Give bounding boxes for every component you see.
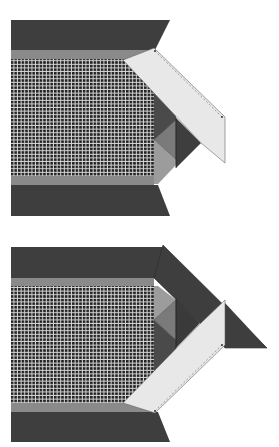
- stitch-start-dot-2: [154, 410, 156, 412]
- stitch-end-dot-2: [221, 344, 223, 346]
- step-2-illustration: [11, 245, 267, 442]
- top-gray-stripe-2: [11, 278, 154, 286]
- checker-center: [11, 59, 154, 176]
- right-dark-triangle-2: [225, 303, 267, 348]
- quilt-diagram: [0, 0, 279, 447]
- bottom-gray-stripe: [11, 176, 154, 185]
- checker-center-2: [11, 286, 154, 403]
- stitch-start-dot: [154, 50, 156, 52]
- stitch-end-dot: [221, 116, 223, 118]
- bottom-dark-band: [11, 185, 170, 216]
- bottom-dark-band-2: [11, 412, 170, 442]
- step-1-illustration: [11, 20, 225, 216]
- top-dark-band-2: [11, 247, 163, 278]
- top-dark-band: [11, 20, 170, 50]
